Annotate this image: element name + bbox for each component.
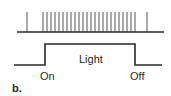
panel-label: b. [12, 83, 22, 94]
on-label: On [40, 71, 55, 82]
diagram-canvas [0, 0, 171, 96]
off-label: Off [130, 71, 144, 82]
spike-train [27, 12, 147, 32]
light-label: Light [79, 54, 103, 65]
